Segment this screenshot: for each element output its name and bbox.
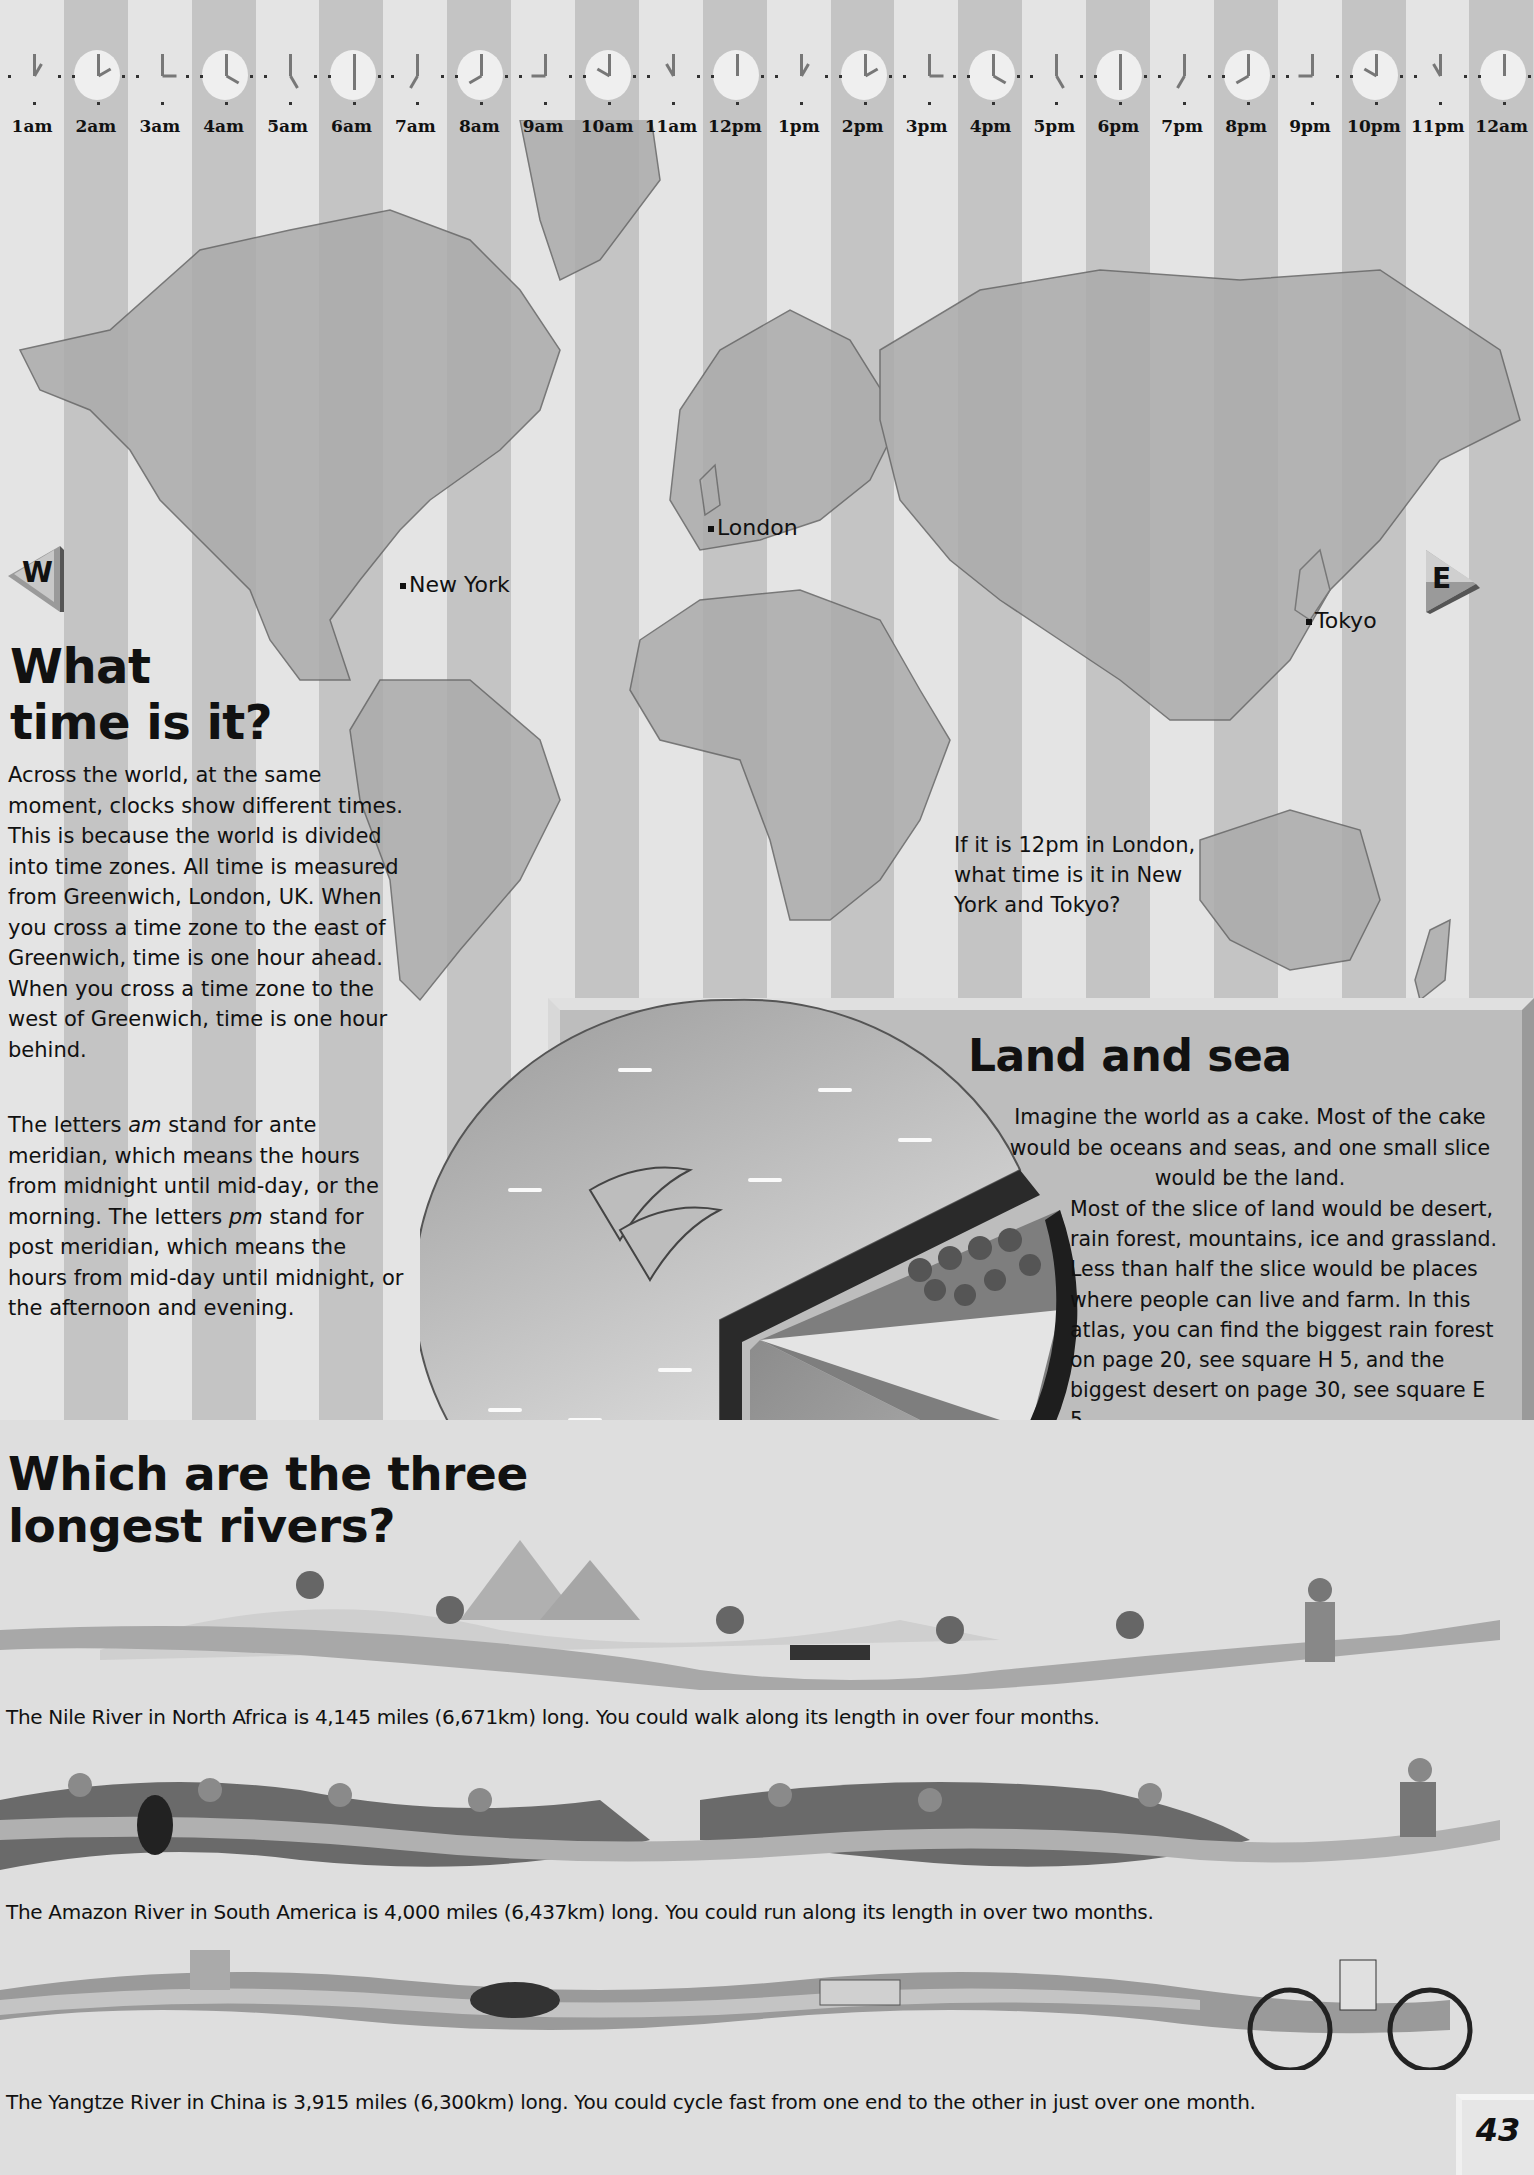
hour-hand-icon [353,76,356,90]
clock-tick-icon [161,102,164,105]
clock-tick-icon [264,75,267,78]
minute-hand-icon [928,54,931,76]
minute-hand-icon [1183,54,1186,76]
clock-label: 4am [192,116,256,136]
clock-tick-icon [1094,75,1097,78]
clock-tick-icon [928,102,931,105]
city-marker-icon [400,583,406,589]
clock-tick-icon [569,75,572,78]
clock-tick-icon [583,75,586,78]
clock-tick-icon [353,102,356,105]
minute-hand-icon [992,54,995,76]
clock-tick-icon [1336,75,1339,78]
land-sea-intro: Imagine the world as a cake. Most of the… [990,1102,1510,1194]
clock-tick-icon [953,75,956,78]
clock-tick-icon [122,75,125,78]
clock-tick-icon [711,75,714,78]
clock-tick-icon [992,102,995,105]
clock-tick-icon [1080,75,1083,78]
clock-tick-icon [1208,75,1211,78]
yangtze-caption: The Yangtze River in China is 3,915 mile… [6,2090,1256,2114]
clock-12pm: 12pm [703,40,767,150]
clock-tick-icon [544,102,547,105]
clock-tick-icon [1503,102,1506,105]
clock-label: 12pm [703,116,767,136]
clock-6pm: 6pm [1086,40,1150,150]
clock-tick-icon [1286,75,1289,78]
clock-2pm: 2pm [831,40,895,150]
clock-tick-icon [1350,75,1353,78]
clock-tick-icon [505,75,508,78]
minute-hand-icon [353,54,356,76]
clock-10am: 10am [575,40,639,150]
hour-hand-icon [162,75,176,78]
clock-8am: 8am [447,40,511,150]
clock-tick-icon [200,75,203,78]
clock-11am: 11am [639,40,703,150]
clock-tick-icon [250,75,253,78]
clock-label: 8am [447,116,511,136]
clock-label: 3pm [895,116,959,136]
clock-10pm: 10pm [1342,40,1406,150]
minute-hand-icon [480,54,483,76]
clock-tick-icon [633,75,636,78]
clock-tick-icon [480,102,483,105]
clock-label: 9pm [1278,116,1342,136]
clock-1am: 1am [0,40,64,150]
clock-1pm: 1pm [767,40,831,150]
clock-tick-icon [314,75,317,78]
clock-tick-icon [967,75,970,78]
clock-tick-icon [1144,75,1147,78]
clock-label: 5am [256,116,320,136]
nile-scene-icon [0,1540,1534,1690]
clock-label: 9am [511,116,575,136]
clock-12am: 12am [1470,40,1534,150]
city-london: London [708,515,798,540]
clock-7pm: 7pm [1150,40,1214,150]
clock-tick-icon [1183,102,1186,105]
clock-tick-icon [1400,75,1403,78]
hour-hand-icon [1503,62,1506,76]
clock-3pm: 3pm [895,40,959,150]
clock-tick-icon [775,75,778,78]
time-section-paragraph-2: The letters am stand for ante meridian, … [8,1110,408,1324]
clock-9pm: 9pm [1278,40,1342,150]
clock-tick-icon [839,75,842,78]
clock-label: 10pm [1342,116,1406,136]
clock-label: 1am [0,116,64,136]
clock-tick-icon [1247,102,1250,105]
minute-hand-icon [1055,54,1058,76]
clock-tick-icon [1158,75,1161,78]
clock-tick-icon [800,102,803,105]
clock-tick-icon [1030,75,1033,78]
minute-hand-icon [1247,54,1250,76]
minute-hand-icon [416,54,419,76]
clock-2am: 2am [64,40,128,150]
clock-tick-icon [72,75,75,78]
clock-tick-icon [8,75,11,78]
yangtze-scene-icon [0,1940,1534,2070]
clock-tick-icon [519,75,522,78]
clock-row: 1am2am3am4am5am6am7am8am9am10am11am12pm1… [0,40,1534,150]
minute-hand-icon [161,54,164,76]
clock-tick-icon [186,75,189,78]
clock-tick-icon [1478,75,1481,78]
clock-tick-icon [1222,75,1225,78]
clock-tick-icon [33,102,36,105]
hour-hand-icon [736,62,739,76]
hour-hand-icon [1299,75,1313,78]
clock-tick-icon [1119,102,1122,105]
amazon-caption: The Amazon River in South America is 4,0… [6,1900,1154,1924]
nile-illustration [0,1540,1534,1690]
clock-tick-icon [441,75,444,78]
clock-tick-icon [608,102,611,105]
land-sea-title: Land and sea [968,1030,1291,1081]
clock-label: 4pm [959,116,1023,136]
city-new-york: New York [400,572,510,597]
time-section-title: What time is it? [10,638,272,750]
clock-tick-icon [1272,75,1275,78]
clock-tick-icon [378,75,381,78]
clock-tick-icon [58,75,61,78]
clock-tick-icon [825,75,828,78]
clock-tick-icon [697,75,700,78]
